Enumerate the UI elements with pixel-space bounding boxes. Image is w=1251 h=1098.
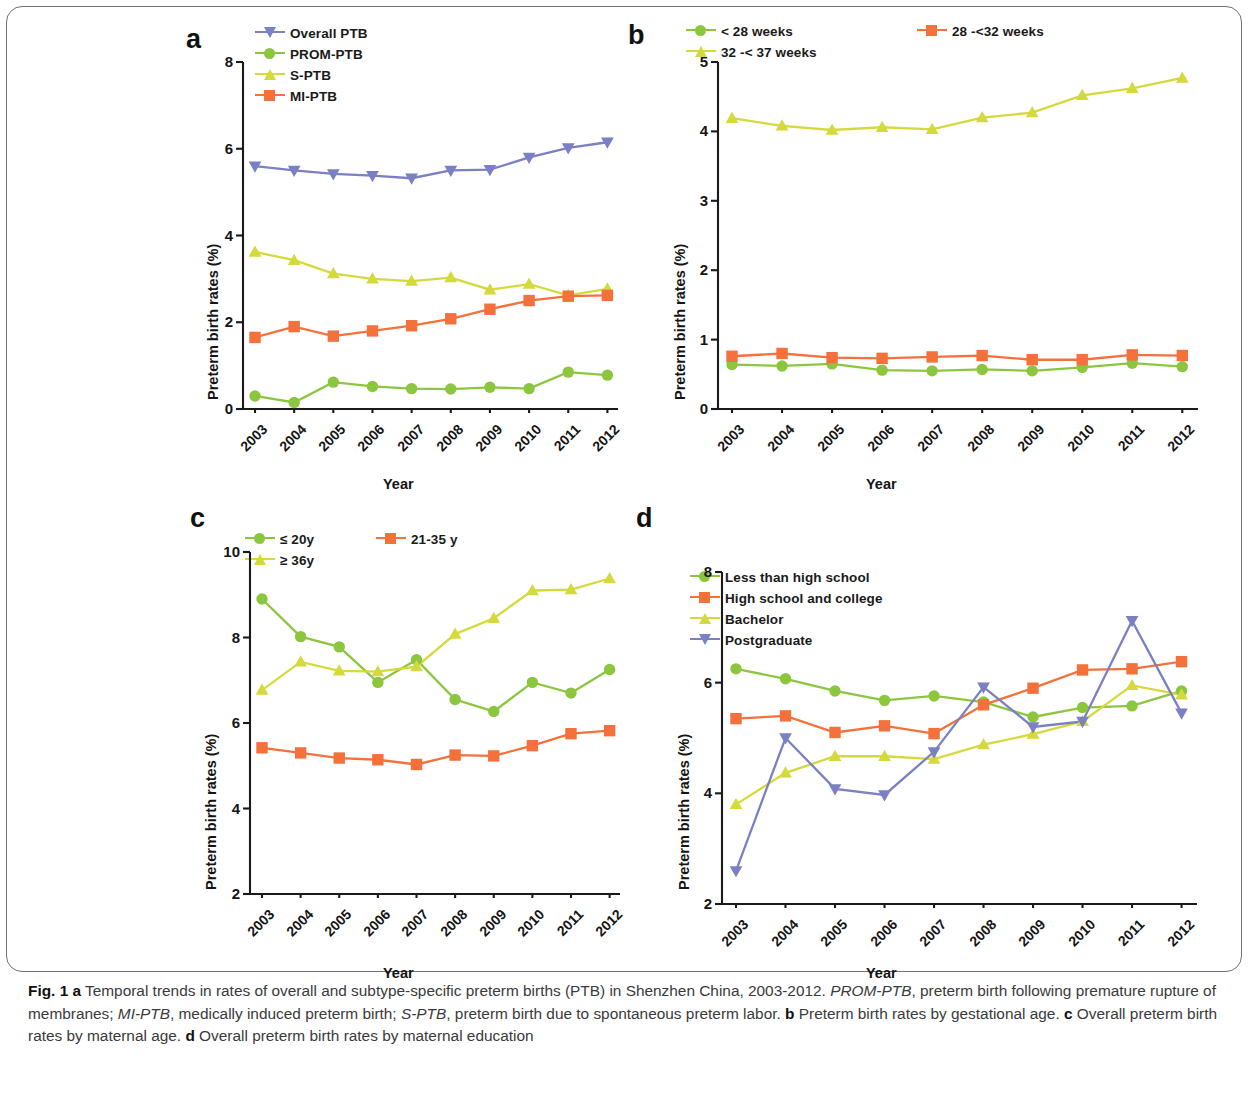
plot-a-svg xyxy=(225,58,620,413)
panel-b-plot: 0123452003200420052006200720082009201020… xyxy=(700,58,1200,413)
y-tick-label: 4 xyxy=(670,122,708,139)
panel-a-plot: 0246820032004200520062007200820092010201… xyxy=(225,58,620,413)
y-tick-label: 8 xyxy=(674,563,712,580)
caption-c-mark: c xyxy=(1064,1005,1073,1022)
panel-c-x-axis-label: Year xyxy=(383,965,414,981)
panel-b-x-axis-label: Year xyxy=(866,476,897,492)
legend-marker-icon xyxy=(245,530,275,548)
panel-d-letter: d xyxy=(636,505,653,532)
y-tick-label: 2 xyxy=(670,261,708,278)
y-tick-label: 8 xyxy=(202,629,240,646)
legend-label: < 28 weeks xyxy=(721,24,793,39)
legend-marker-icon xyxy=(255,24,285,42)
panel-c-letter: c xyxy=(190,505,205,532)
panel-d-plot: 2468200320042005200620072008200920102011… xyxy=(704,568,1199,908)
caption-s-text: , preterm birth due to spontaneous prete… xyxy=(446,1005,785,1022)
legend-marker-icon xyxy=(686,22,716,40)
plot-b-svg xyxy=(700,58,1200,413)
legend-item-28-32-weeks: 28 -<32 weeks xyxy=(917,22,1167,40)
y-tick-label: 4 xyxy=(674,784,712,801)
legend-marker-icon xyxy=(376,530,406,548)
y-tick-label: 4 xyxy=(195,227,233,244)
y-tick-label: 0 xyxy=(670,400,708,417)
y-tick-label: 8 xyxy=(195,53,233,70)
y-tick-label: 6 xyxy=(202,714,240,731)
caption-s-abbr: S-PTB xyxy=(401,1005,446,1022)
caption-d-text: Overall preterm birth rates by maternal … xyxy=(195,1027,534,1044)
figure-caption: Fig. 1 a Temporal trends in rates of ove… xyxy=(28,980,1224,1048)
plot-c-svg xyxy=(232,548,622,898)
caption-a-mark: a xyxy=(72,982,81,999)
legend-item-28-weeks: < 28 weeks xyxy=(686,22,901,40)
caption-fig-label: Fig. 1 xyxy=(28,982,68,999)
plot-d-svg xyxy=(704,568,1199,908)
y-tick-label: 2 xyxy=(674,895,712,912)
caption-prom-abbr: PROM-PTB xyxy=(830,982,911,999)
panel-c-plot: 2468102003200420052006200720082009201020… xyxy=(232,548,622,898)
caption-mi-text: , medically induced preterm birth; xyxy=(170,1005,401,1022)
panel-d-x-axis-label: Year xyxy=(866,965,897,981)
caption-d-mark: d xyxy=(185,1027,194,1044)
legend-item-20y: ≤ 20y xyxy=(245,530,360,548)
panel-d-y-axis-label: Preterm birth rates (%) xyxy=(676,734,692,890)
legend-label: 21-35 y xyxy=(411,532,458,547)
y-tick-label: 3 xyxy=(670,192,708,209)
panel-b-letter: b xyxy=(628,22,645,49)
y-tick-label: 4 xyxy=(202,800,240,817)
legend-label: Overall PTB xyxy=(290,26,368,41)
legend-item-overall-ptb: Overall PTB xyxy=(255,24,405,42)
y-tick-label: 6 xyxy=(674,674,712,691)
panel-a-x-axis-label: Year xyxy=(383,476,414,492)
caption-b-text: Preterm birth rates by gestational age. xyxy=(794,1005,1063,1022)
legend-label: 28 -<32 weeks xyxy=(952,24,1044,39)
y-tick-label: 10 xyxy=(202,543,240,560)
legend-marker-icon xyxy=(917,22,947,40)
caption-a-text: Temporal trends in rates of overall and … xyxy=(81,982,830,999)
y-tick-label: 2 xyxy=(195,313,233,330)
y-tick-label: 2 xyxy=(202,885,240,902)
caption-mi-abbr: MI-PTB xyxy=(118,1005,170,1022)
legend-label: ≤ 20y xyxy=(280,532,314,547)
y-tick-label: 0 xyxy=(195,400,233,417)
panel-a-letter: a xyxy=(186,26,201,53)
legend-item-21-35-y: 21-35 y xyxy=(376,530,511,548)
y-tick-label: 6 xyxy=(195,140,233,157)
y-tick-label: 5 xyxy=(670,53,708,70)
y-tick-label: 1 xyxy=(670,331,708,348)
